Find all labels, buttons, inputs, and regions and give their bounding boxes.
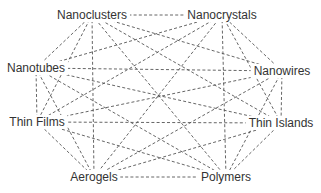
- edge-nanowires-thin_films: [37, 71, 282, 122]
- node-thin-films: Thin Films: [6, 115, 67, 129]
- edge-nanocrystals-polymers: [222, 15, 226, 177]
- edge-nanoclusters-nanowires: [92, 15, 282, 71]
- node-nanocrystals: Nanocrystals: [184, 8, 259, 22]
- edge-nanoclusters-aerogels: [92, 15, 94, 177]
- edge-nanotubes-nanowires: [36, 68, 282, 71]
- node-nanotubes: Nanotubes: [4, 61, 68, 75]
- nanomaterials-diagram: Nanoclusters Nanocrystals Nanotubes Nano…: [0, 0, 321, 193]
- node-aerogels: Aerogels: [67, 170, 120, 184]
- node-polymers: Polymers: [198, 170, 254, 184]
- edge-thin_films-thin_islands: [37, 122, 281, 123]
- edge-nanocrystals-aerogels: [94, 15, 222, 177]
- edge-nanotubes-thin_films: [36, 68, 37, 122]
- edge-thin_films-aerogels: [37, 122, 94, 177]
- node-nanowires: Nanowires: [251, 64, 314, 78]
- node-thin-islands: Thin Islands: [246, 116, 317, 130]
- edges-layer: [0, 0, 321, 193]
- node-nanoclusters: Nanoclusters: [54, 8, 130, 22]
